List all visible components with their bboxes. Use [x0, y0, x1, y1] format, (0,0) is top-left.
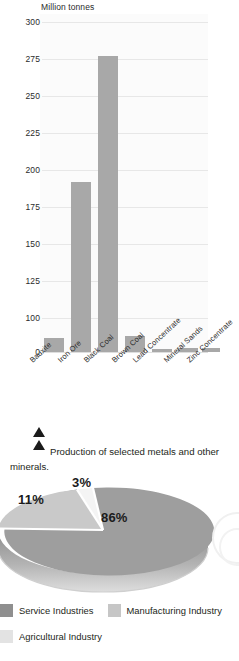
bar-black-coal — [98, 56, 118, 352]
legend-label-manufacturing-industry: Manufacturing Industry — [127, 605, 222, 616]
gridline-225 — [42, 133, 208, 134]
y-axis-tick-100: 100 — [14, 313, 40, 323]
y-axis-tick-150: 150 — [14, 239, 40, 249]
legend-swatch-service-industries — [0, 604, 13, 617]
legend-label-agricultural-industry: Agricultural Industry — [19, 631, 102, 642]
legend-item-manufacturing-industry: Manufacturing Industry — [108, 604, 222, 617]
gridline-175 — [42, 207, 208, 208]
gridline-300 — [42, 22, 208, 23]
y-axis-tick-300: 300 — [14, 17, 40, 27]
legend-swatch-manufacturing-industry — [108, 604, 121, 617]
legend-label-service-industries: Service Industries — [19, 605, 94, 616]
bar-chart-axis-title: Million tonnes — [41, 2, 94, 12]
legend-swatch-agricultural-industry — [0, 630, 13, 643]
y-axis-tick-250: 250 — [14, 91, 40, 101]
y-axis-tick-125: 125 — [14, 276, 40, 286]
gridline-100 — [42, 318, 208, 319]
gridline-125 — [42, 281, 208, 282]
gridline-250 — [42, 96, 208, 97]
pie-label-3: 3% — [72, 475, 91, 490]
pie-chart: 86% 11% 3% — [0, 476, 239, 601]
bar-chart: Million tonnes 300 275 250 225 200 175 1… — [0, 0, 239, 415]
gridline-200 — [42, 170, 208, 171]
gridline-275 — [42, 59, 208, 60]
caption-text: Production of selected metals and other … — [10, 444, 235, 474]
bar-chart-plot-background — [40, 14, 208, 352]
y-axis-tick-275: 275 — [14, 54, 40, 64]
gridline-150 — [42, 244, 208, 245]
pie-label-86: 86% — [101, 510, 128, 525]
bar-iron-ore — [71, 182, 91, 352]
y-axis-tick-175: 175 — [14, 202, 40, 212]
legend-item-agricultural-industry: Agricultural Industry — [0, 630, 102, 643]
legend-item-service-industries: Service Industries — [0, 604, 94, 617]
pie-label-11: 11% — [18, 492, 44, 507]
y-axis-tick-200: 200 — [14, 165, 40, 175]
y-axis-tick-225: 225 — [14, 128, 40, 138]
